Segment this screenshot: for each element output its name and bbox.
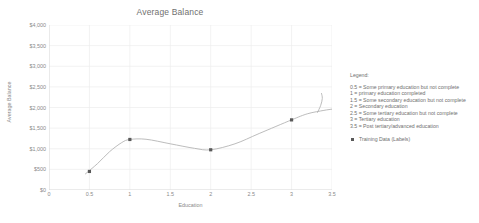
data-point-marker [209, 148, 212, 151]
y-tick-label: $500 [12, 166, 46, 172]
x-tick-label: 1.5 [158, 191, 182, 197]
plot-area [49, 25, 332, 190]
plot-svg [49, 25, 332, 190]
x-tick-label: 3 [280, 191, 304, 197]
gridlines [49, 25, 332, 190]
x-tick-label: 0.5 [77, 191, 101, 197]
legend-entry: 2 = Secondary education [350, 103, 476, 110]
legend-entry: 2.5 = Some tertiary education but not co… [350, 110, 476, 117]
legend-entry: 1 = primary education completed [350, 90, 476, 97]
y-tick-label: $4,000 [12, 22, 46, 28]
series-curve [317, 93, 322, 112]
x-axis-title: Education [49, 202, 332, 208]
data-point-marker [88, 170, 91, 173]
series-lines [85, 93, 332, 173]
series-curve [85, 109, 332, 174]
legend: Legend: 0.5 = Some primary education but… [350, 72, 476, 142]
x-tick-label: 3.5 [320, 191, 344, 197]
legend-entry: 3 = Tertiary education [350, 116, 476, 123]
chart-container: Average Balance $0$500$1,000$1,500$2,000… [0, 0, 479, 223]
data-point-marker [290, 118, 293, 121]
y-tick-label: $3,000 [12, 63, 46, 69]
y-tick-label: $1,000 [12, 146, 46, 152]
y-tick-label: $2,000 [12, 105, 46, 111]
x-tick-label: 2.5 [239, 191, 263, 197]
series-markers [88, 118, 293, 173]
legend-entry: 0.5 = Some primary education but not com… [350, 84, 476, 91]
x-tick-label: 0 [37, 191, 61, 197]
legend-entry: 3.5 = Post tertiary/advanced education [350, 123, 476, 130]
y-tick-label: $2,500 [12, 84, 46, 90]
y-axis-tick-labels: $0$500$1,000$1,500$2,000$2,500$3,000$3,5… [8, 25, 46, 190]
legend-heading: Legend: [350, 72, 476, 78]
data-point-marker [128, 138, 131, 141]
legend-marker-icon [351, 138, 354, 141]
y-tick-label: $1,500 [12, 125, 46, 131]
x-tick-label: 2 [199, 191, 223, 197]
x-tick-label: 1 [118, 191, 142, 197]
legend-series-label: Training Data (Labels) [359, 136, 410, 142]
chart-title: Average Balance [0, 7, 340, 17]
legend-entry-list: 0.5 = Some primary education but not com… [350, 84, 476, 130]
y-tick-label: $3,500 [12, 43, 46, 49]
y-axis-title: Average Balance [6, 62, 12, 142]
legend-series-entry: Training Data (Labels) [350, 136, 476, 142]
legend-entry: 1.5 = Some secondary education but not c… [350, 97, 476, 104]
